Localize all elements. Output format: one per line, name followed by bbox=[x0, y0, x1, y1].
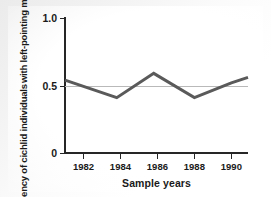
x-tick-label: 1988 bbox=[184, 161, 205, 172]
x-tick-label: 1990 bbox=[221, 161, 242, 172]
y-tick-label: 1.0 bbox=[42, 12, 57, 24]
data-series-line bbox=[65, 18, 248, 153]
x-tick-mark bbox=[194, 154, 195, 159]
y-axis-title: Frequency of cichlid individuals with le… bbox=[0, 0, 46, 197]
y-axis-title-line-2: with left-pointing mouths bbox=[18, 0, 29, 83]
y-tick-label: 0.5 bbox=[42, 80, 57, 92]
y-axis-title-line-1: Frequency of cichlid individuals bbox=[18, 84, 29, 197]
y-tick-mark bbox=[60, 153, 65, 154]
x-tick-mark bbox=[83, 154, 84, 159]
x-tick-label: 1984 bbox=[110, 161, 131, 172]
chart-figure: Frequency of cichlid individuals with le… bbox=[0, 0, 271, 197]
x-tick-label: 1982 bbox=[73, 161, 94, 172]
plot-area: 00.51.0 19821984198619881990 bbox=[65, 18, 248, 153]
x-tick-label: 1986 bbox=[147, 161, 168, 172]
x-tick-mark bbox=[231, 154, 232, 159]
x-axis-title: Sample years bbox=[65, 177, 248, 189]
y-tick-label: 0 bbox=[51, 147, 57, 159]
x-tick-mark bbox=[157, 154, 158, 159]
x-tick-mark bbox=[120, 154, 121, 159]
